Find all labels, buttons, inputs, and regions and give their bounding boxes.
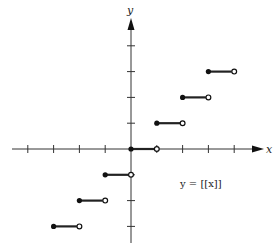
- y-axis-arrow-icon: [128, 18, 135, 30]
- y-axis-label: y: [126, 4, 134, 17]
- step-function-plot: x y y = [[x]]: [0, 0, 274, 251]
- equation-label: y = [[x]]: [179, 178, 222, 189]
- x-axis-arrow-icon: [252, 146, 264, 153]
- y-axis: [128, 18, 135, 243]
- x-axis-label: x: [266, 143, 273, 156]
